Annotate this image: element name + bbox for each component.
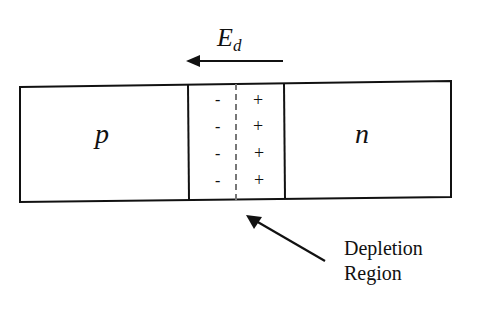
electric-field-arrow	[186, 55, 283, 67]
svg-text:-: -	[215, 118, 220, 135]
field-label: Ed	[216, 23, 242, 55]
svg-text:+: +	[254, 143, 264, 163]
positive-charges: + + + +	[253, 90, 264, 190]
negative-charges: - - - -	[215, 91, 220, 189]
pn-junction-diagram: Ed p n - - - - + + + + Depletion Region	[0, 0, 480, 314]
svg-text:-: -	[215, 172, 220, 189]
callout-line-2: Region	[344, 262, 402, 285]
p-depletion-boundary	[188, 85, 189, 200]
svg-text:+: +	[253, 90, 263, 110]
svg-text:-: -	[215, 91, 220, 108]
n-depletion-boundary	[284, 83, 285, 199]
svg-text:+: +	[253, 116, 263, 136]
junction-box	[20, 81, 451, 202]
svg-text:+: +	[254, 170, 264, 190]
n-region-label: n	[355, 118, 369, 149]
svg-text:-: -	[215, 145, 220, 162]
depletion-callout-arrow	[246, 215, 325, 261]
p-region-label: p	[93, 118, 109, 149]
callout-line-1: Depletion	[344, 237, 423, 260]
